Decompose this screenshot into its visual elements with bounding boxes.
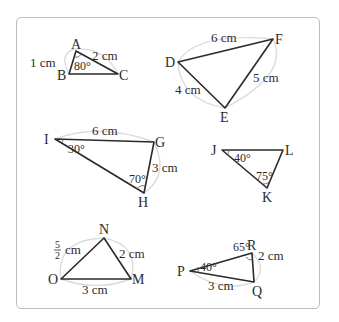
vertex-label-j: J xyxy=(211,143,217,158)
vertex-label-i: I xyxy=(44,132,49,147)
angle-label-a: 80° xyxy=(74,59,91,73)
vertex-label-f: F xyxy=(275,32,283,47)
triangle-ghi: I G H 6 cm 3 cm 30° 70° xyxy=(44,123,178,210)
side-label-ab: 1 cm xyxy=(30,55,56,70)
side-label-pq: 3 cm xyxy=(208,278,234,293)
vertex-label-c: C xyxy=(119,68,128,83)
vertex-label-b: B xyxy=(57,68,66,83)
fraction-numerator: 5 xyxy=(55,239,60,250)
angle-label-h: 70° xyxy=(129,172,146,186)
angle-label-r: 65° xyxy=(233,240,250,254)
vertex-label-k: K xyxy=(262,190,272,205)
side-label-ef: 5 cm xyxy=(253,70,279,85)
vertex-label-p: P xyxy=(177,264,185,279)
fraction-denominator: 2 xyxy=(55,250,60,261)
vertex-label-m: M xyxy=(132,272,145,287)
angle-label-i: 30° xyxy=(68,142,85,156)
triangle-pqr: R P Q 2 cm 3 cm 40° 65° xyxy=(177,238,284,299)
triangle-jkl-edges xyxy=(222,150,283,188)
side-label-ig: 6 cm xyxy=(92,123,118,138)
angle-r-arc xyxy=(246,257,252,260)
side-label-nm: 2 cm xyxy=(119,246,145,261)
vertex-label-o: O xyxy=(48,272,58,287)
side-label-om: 3 cm xyxy=(82,282,108,297)
vertex-label-q: Q xyxy=(252,284,262,299)
triangle-mno: N O M 5 2 cm 2 cm 3 cm xyxy=(48,222,145,297)
triangle-abc: A B C 1 cm 2 cm 80° xyxy=(30,37,128,83)
side-label-gh: 3 cm xyxy=(152,160,178,175)
side-label-de: 4 cm xyxy=(175,82,201,97)
side-label-df: 6 cm xyxy=(211,30,237,45)
angle-label-j: 40° xyxy=(234,151,251,165)
side-label-ac: 2 cm xyxy=(92,48,118,63)
vertex-label-l: L xyxy=(285,143,294,158)
side-label-on: 5 2 cm xyxy=(54,239,81,261)
triangle-def: D F E 6 cm 4 cm 5 cm xyxy=(165,30,283,125)
vertex-label-d: D xyxy=(165,55,175,70)
vertex-label-e: E xyxy=(220,110,229,125)
vertex-label-n: N xyxy=(99,222,109,237)
vertex-label-a: A xyxy=(71,37,82,52)
triangles-figure: A B C 1 cm 2 cm 80° D F E 6 cm 4 cm 5 cm… xyxy=(0,0,339,322)
vertex-label-g: G xyxy=(155,135,165,150)
side-label-on-unit: cm xyxy=(65,242,81,257)
angle-label-p: 40° xyxy=(200,260,217,274)
vertex-label-h: H xyxy=(138,195,148,210)
side-label-rq: 2 cm xyxy=(258,248,284,263)
triangle-jkl: J L K 40° 75° xyxy=(211,143,294,205)
angle-label-k: 75° xyxy=(256,169,273,183)
